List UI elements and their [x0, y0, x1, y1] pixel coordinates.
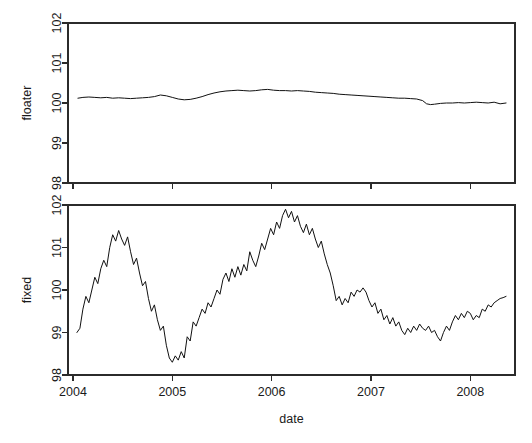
x-tick-label: 2008	[456, 385, 484, 399]
x-tick-label: 2006	[258, 385, 286, 399]
y-tick-label: 100	[50, 93, 64, 114]
x-tick-label: 2007	[357, 385, 385, 399]
plot-background	[0, 0, 532, 443]
y-axis-title: fixed	[20, 277, 34, 303]
y-tick-label: 102	[50, 13, 64, 34]
two-panel-timeseries-plot: 9899100101102floater 9899100101102200420…	[0, 0, 532, 443]
y-tick-label: 98	[50, 176, 64, 190]
y-tick-label: 98	[50, 368, 64, 382]
y-tick-label: 100	[50, 280, 64, 301]
y-tick-label: 99	[50, 136, 64, 150]
y-axis-title: floater	[20, 86, 34, 121]
y-tick-label: 99	[50, 326, 64, 340]
y-tick-label: 101	[50, 237, 64, 258]
x-tick-label: 2005	[158, 385, 186, 399]
y-tick-label: 101	[50, 53, 64, 74]
y-tick-label: 102	[50, 195, 64, 216]
chart-figure: 9899100101102floater 9899100101102200420…	[0, 0, 532, 443]
x-axis-title: date	[279, 412, 303, 426]
x-tick-label: 2004	[59, 385, 87, 399]
